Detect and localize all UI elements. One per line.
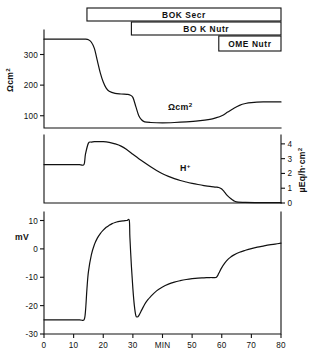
- svg-text:-20: -20: [26, 302, 39, 311]
- svg-text:0: 0: [42, 341, 47, 350]
- svg-text:2: 2: [288, 169, 293, 178]
- svg-text:50: 50: [187, 341, 197, 350]
- panel-acid-ticks: [281, 144, 285, 203]
- svg-text:-10: -10: [26, 273, 39, 282]
- svg-text:60: 60: [217, 341, 227, 350]
- svg-text:10: 10: [69, 341, 79, 350]
- panel-pd-x-tick-labels: 0102030MIN50607080: [42, 341, 286, 350]
- svg-text:-30: -30: [26, 330, 39, 339]
- svg-text:0: 0: [33, 245, 38, 254]
- panel-resistance-y-axis-title: Ωcm2: [4, 68, 15, 92]
- svg-text:20: 20: [98, 341, 108, 350]
- panel-pd-y-axis-title: mV: [15, 232, 29, 242]
- svg-text:3: 3: [288, 155, 293, 164]
- svg-text:4: 4: [288, 140, 293, 149]
- resistance-series-label: Ωcm2: [168, 101, 193, 112]
- treatment-bar-group: BOK Secr BO K Nutr OME Nutr: [87, 8, 281, 51]
- panel-pd-x-ticks: [44, 334, 281, 338]
- panel-potential-difference: -30-20-10010 0102030MIN50607080 mV: [15, 212, 286, 350]
- panel-acid-axis: [44, 135, 281, 203]
- svg-text:200: 200: [24, 81, 39, 90]
- resistance-curve: [44, 39, 281, 123]
- treatment-bar-ome-nutr: OME Nutr: [219, 36, 281, 51]
- figure-container: BOK Secr BO K Nutr OME Nutr 100200300 Ωc…: [0, 0, 317, 359]
- panel-resistance-tick-labels: 100200300: [24, 51, 39, 121]
- panel-pd-axis: [44, 212, 281, 334]
- svg-text:100: 100: [24, 112, 39, 121]
- acid-secretion-curve: [44, 142, 281, 203]
- acid-secretion-series-label: H+: [180, 162, 191, 173]
- svg-text:10: 10: [28, 217, 38, 226]
- svg-text:30: 30: [128, 341, 138, 350]
- svg-text:MIN: MIN: [155, 341, 171, 350]
- treatment-bar-bok-secr: BOK Secr: [87, 8, 281, 21]
- treatment-bar-label: OME Nutr: [228, 39, 272, 49]
- treatment-bar-bok-nutr: BO K Nutr: [131, 22, 281, 35]
- panel-acid-y-axis-title: µEq/h·cm2: [296, 147, 307, 192]
- svg-text:1: 1: [288, 184, 293, 193]
- treatment-bar-label: BO K Nutr: [183, 24, 229, 34]
- scientific-figure: BOK Secr BO K Nutr OME Nutr 100200300 Ωc…: [0, 0, 317, 359]
- svg-text:300: 300: [24, 51, 39, 60]
- svg-text:70: 70: [247, 341, 257, 350]
- potential-difference-curve: [44, 219, 281, 320]
- svg-text:0: 0: [288, 199, 293, 208]
- panel-resistance-ticks: [40, 55, 44, 116]
- panel-pd-ticks: [40, 221, 44, 334]
- panel-acid-secretion: 01234 µEq/h·cm2 H+: [44, 135, 307, 208]
- svg-text:80: 80: [276, 341, 286, 350]
- panel-acid-tick-labels: 01234: [288, 140, 293, 208]
- treatment-bar-label: BOK Secr: [162, 10, 206, 20]
